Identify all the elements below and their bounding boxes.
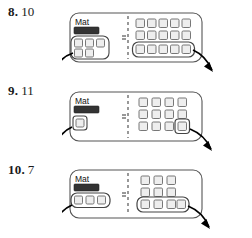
unit-tile bbox=[171, 19, 180, 28]
problem-item: 8.10 Mat bbox=[0, 0, 252, 79]
problem-label: 10.7 bbox=[8, 162, 35, 178]
unit-tile bbox=[139, 122, 148, 131]
unit-tile bbox=[167, 176, 176, 185]
problem-answer: 7 bbox=[28, 162, 35, 177]
arrow-down-right-head bbox=[204, 62, 213, 72]
unit-tile bbox=[152, 110, 161, 119]
unit-tile bbox=[75, 49, 83, 57]
ten-rod bbox=[74, 27, 99, 34]
unit-tile bbox=[178, 98, 187, 107]
unit-tile bbox=[148, 19, 157, 28]
unit-tile bbox=[165, 110, 174, 119]
problem-number: 8. bbox=[8, 4, 18, 19]
problem-label: 8.10 bbox=[8, 4, 35, 20]
unit-tile bbox=[178, 122, 187, 131]
ten-frame-diagram: Mat bbox=[62, 158, 252, 237]
unit-tile bbox=[159, 31, 168, 40]
unit-tile bbox=[171, 31, 180, 40]
unit-tile bbox=[178, 110, 187, 119]
ten-rod bbox=[74, 106, 99, 113]
mat-label: Mat bbox=[75, 17, 90, 27]
problem-number: 10. bbox=[8, 162, 25, 177]
unit-tile bbox=[141, 176, 150, 185]
unit-tile bbox=[177, 200, 186, 209]
unit-tile bbox=[167, 188, 176, 197]
worksheet: 8.10 Mat bbox=[0, 0, 252, 238]
unit-tile bbox=[159, 19, 168, 28]
arrow-down-right-head bbox=[201, 219, 210, 229]
unit-tile bbox=[139, 98, 148, 107]
unit-tile bbox=[148, 31, 157, 40]
mat-label: Mat bbox=[75, 174, 90, 184]
unit-tile bbox=[136, 31, 145, 40]
unit-tile bbox=[97, 39, 105, 47]
unit-tile bbox=[182, 31, 191, 40]
unit-tile bbox=[86, 196, 94, 204]
unit-tile bbox=[98, 196, 106, 204]
unit-tile bbox=[141, 188, 150, 197]
panel-outline bbox=[70, 170, 202, 218]
problem-item: 10.7 Mat bbox=[0, 158, 252, 237]
unit-tile bbox=[136, 19, 145, 28]
ten-rod bbox=[74, 184, 99, 191]
unit-tile bbox=[182, 45, 191, 54]
unit-tile bbox=[136, 45, 145, 54]
mat-label: Mat bbox=[75, 96, 90, 106]
unit-tile bbox=[86, 39, 94, 47]
unit-tile bbox=[159, 45, 168, 54]
unit-tile bbox=[139, 110, 148, 119]
unit-tile bbox=[75, 196, 83, 204]
problem-number: 9. bbox=[8, 83, 18, 98]
unit-tile bbox=[86, 49, 94, 57]
unit-tile bbox=[165, 98, 174, 107]
unit-tile bbox=[148, 45, 157, 54]
unit-tile bbox=[141, 200, 150, 209]
problem-answer: 10 bbox=[21, 4, 34, 19]
unit-tile bbox=[75, 39, 83, 47]
problem-answer: 11 bbox=[21, 83, 34, 98]
ten-frame-diagram: Mat bbox=[62, 0, 252, 79]
unit-tile bbox=[152, 98, 161, 107]
arrow-down-right-head bbox=[203, 141, 212, 151]
unit-tile bbox=[154, 200, 163, 209]
ten-frame-diagram: Mat bbox=[62, 79, 252, 158]
unit-tile bbox=[154, 188, 163, 197]
unit-tile bbox=[152, 122, 161, 131]
unit-tile bbox=[167, 200, 176, 209]
unit-tile bbox=[165, 122, 174, 131]
unit-tile bbox=[171, 45, 180, 54]
problem-item: 9.11 Mat bbox=[0, 79, 252, 158]
problem-label: 9.11 bbox=[8, 83, 34, 99]
unit-tile bbox=[154, 176, 163, 185]
unit-tile bbox=[182, 19, 191, 28]
unit-tile bbox=[76, 119, 84, 127]
